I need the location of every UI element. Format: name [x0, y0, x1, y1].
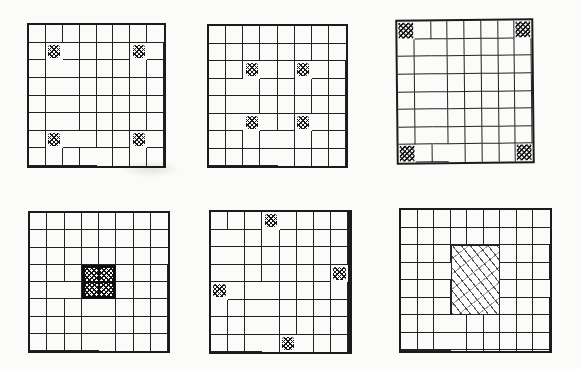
- grid-cell: [418, 210, 435, 228]
- grid-cell: [116, 248, 133, 265]
- grid-cell: [130, 148, 147, 166]
- grid-cell: [415, 127, 432, 145]
- grid-cell: [243, 44, 260, 62]
- grid-cell: [147, 43, 164, 61]
- grid-cell: [451, 228, 468, 246]
- grid-cell: [499, 126, 516, 144]
- grid-cell: [329, 44, 346, 62]
- grid-cell: [295, 131, 312, 149]
- grid-cell: [278, 44, 295, 62]
- grid-cell: [97, 60, 114, 78]
- grid-cell: [464, 38, 481, 56]
- grid-cell: [467, 210, 484, 228]
- grid-cell: [209, 131, 226, 149]
- grid-cell: [30, 230, 47, 247]
- grid-cell: [245, 317, 262, 335]
- grid-cell: [500, 263, 517, 281]
- grid-cell: [147, 60, 164, 78]
- grid-cell: [278, 96, 295, 114]
- grid-cell: [46, 78, 63, 96]
- grid-cell: [278, 131, 295, 149]
- grid-cell: [47, 334, 64, 351]
- grid-cell: [517, 298, 534, 316]
- grid-cell: [465, 74, 482, 92]
- grid-cell: [262, 335, 279, 353]
- grid-cell: [134, 282, 151, 299]
- grid-cell: [147, 78, 164, 96]
- grid-cell: [243, 149, 260, 167]
- grid-cell: [418, 280, 435, 298]
- grid-cell: [260, 61, 277, 79]
- grid-cell: [260, 79, 277, 97]
- grid-cell: [431, 21, 448, 39]
- grid-top-middle: [207, 24, 348, 168]
- grid-cell: [243, 26, 260, 44]
- grid-cell: [46, 148, 63, 166]
- grid-cell: [209, 149, 226, 167]
- grid-cell: [314, 300, 331, 318]
- grid-cell: [398, 127, 415, 145]
- grid-cell: [82, 213, 99, 230]
- grid-cell: [116, 334, 133, 351]
- grid-cell: [329, 149, 346, 167]
- crosshatch-blob: [398, 22, 414, 39]
- shaded-cell: [397, 22, 414, 40]
- grid-cell: [484, 228, 501, 246]
- grid-cell: [228, 265, 245, 283]
- grid-cell: [113, 148, 130, 166]
- grid-cell: [211, 335, 228, 353]
- grid-cell: [134, 213, 151, 230]
- grid-cell: [130, 96, 147, 114]
- grid-cell: [97, 113, 114, 131]
- grid-cell: [431, 39, 448, 57]
- grid-cell: [467, 333, 484, 351]
- grid-cell: [398, 57, 415, 75]
- shaded-cell: [295, 114, 312, 132]
- grid-cell: [209, 44, 226, 62]
- grid-cell: [151, 317, 168, 334]
- grid-cell: [295, 44, 312, 62]
- crosshatch-blob: [48, 133, 60, 146]
- grid-cell: [515, 38, 532, 56]
- grid-cell: [82, 230, 99, 247]
- grid-cell: [465, 127, 482, 145]
- grid-cell: [211, 212, 228, 230]
- grid-cell: [147, 148, 164, 166]
- grid-cell: [312, 44, 329, 62]
- grid-cell: [451, 315, 468, 333]
- crosshatch-blob: [265, 214, 277, 227]
- grid-cell: [533, 210, 550, 228]
- grid-cell: [415, 109, 432, 127]
- grid-cell: [147, 25, 164, 43]
- grid-cell: [499, 144, 516, 162]
- grid-cell: [314, 265, 331, 283]
- grid-cell: [80, 148, 97, 166]
- grid-cell: [297, 335, 314, 353]
- grid-cell: [278, 114, 295, 132]
- grid-cell: [262, 265, 279, 283]
- grid-cell: [533, 298, 550, 316]
- grid-cell: [211, 247, 228, 265]
- grid-cell: [147, 131, 164, 149]
- grid-cell: [245, 335, 262, 353]
- grid-cell: [451, 210, 468, 228]
- grid-cell: [245, 282, 262, 300]
- grid-top-right: [395, 18, 535, 164]
- grid-cell: [226, 114, 243, 132]
- grid-cell: [517, 210, 534, 228]
- grid-cell: [113, 131, 130, 149]
- grid-cell: [226, 26, 243, 44]
- grid-cell: [80, 113, 97, 131]
- grid-cell: [331, 300, 348, 318]
- grid-cell: [484, 315, 501, 333]
- grid-cell: [498, 38, 515, 56]
- grid-cell: [434, 228, 451, 246]
- grid-cell: [228, 300, 245, 318]
- grid-cell: [29, 96, 46, 114]
- grid-cell: [280, 212, 297, 230]
- grid-cell: [116, 317, 133, 334]
- grid-cell: [30, 334, 47, 351]
- grid-cell: [331, 317, 348, 335]
- grid-cell: [432, 145, 449, 163]
- grid-cell: [515, 56, 532, 74]
